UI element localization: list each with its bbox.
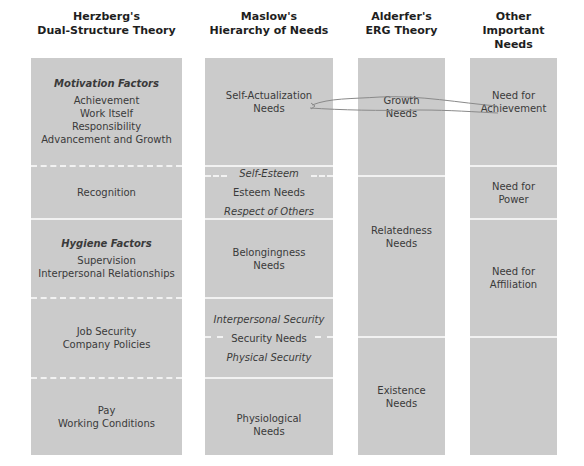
alderfer-growth-cell: Growth Needs	[358, 58, 445, 175]
motivation-item: Achievement	[74, 94, 140, 107]
herzberg-column: Motivation Factors Achievement Work Itse…	[31, 58, 182, 455]
hygiene-item: Supervision	[77, 254, 135, 267]
herzberg-recognition-cell: Recognition	[31, 167, 182, 218]
divider-dashed	[205, 175, 227, 177]
header-maslow-line1: Maslow's	[205, 10, 333, 24]
physiological-label: Needs	[253, 425, 284, 438]
power-label: Need for	[492, 180, 535, 193]
power-label: Power	[498, 193, 528, 206]
alderfer-column: Growth Needs Relatedness Needs Existence…	[358, 58, 445, 455]
self-esteem-label: Self-Esteem	[239, 167, 299, 180]
maslow-physiological-cell: Physiological Needs	[205, 379, 333, 455]
physiological-label: Physiological	[237, 412, 302, 425]
motivation-item: Work Itself	[80, 107, 133, 120]
hygiene-item: Interpersonal Relationships	[38, 267, 174, 280]
motivation-item: Advancement and Growth	[41, 133, 172, 146]
belongingness-label: Belongingness	[233, 246, 306, 259]
esteem-needs-label: Esteem Needs	[233, 186, 305, 199]
alderfer-existence-cell: Existence Needs	[358, 338, 445, 455]
header-other-line1: Other	[462, 10, 565, 24]
maslow-self-actualization-cell: Self-Actualization Needs	[205, 58, 333, 165]
hygiene-item: Pay	[98, 404, 116, 417]
header-other-line2: Important Needs	[462, 24, 565, 52]
header-herzberg: Herzberg's Dual-Structure Theory	[31, 10, 182, 38]
motivation-item: Responsibility	[72, 120, 141, 133]
divider-dashed	[311, 175, 333, 177]
physical-security-label: Physical Security	[227, 351, 312, 364]
header-maslow: Maslow's Hierarchy of Needs	[205, 10, 333, 38]
hygiene-item: Working Conditions	[58, 417, 155, 430]
existence-label: Needs	[386, 397, 417, 410]
achievement-label: Achievement	[481, 102, 547, 115]
header-alderfer-line1: Alderfer's	[358, 10, 445, 24]
affiliation-label: Need for	[492, 265, 535, 278]
other-empty-cell	[470, 338, 557, 455]
header-maslow-line2: Hierarchy of Needs	[205, 24, 333, 38]
hygiene-item: Job Security	[77, 325, 137, 338]
header-alderfer-line2: ERG Theory	[358, 24, 445, 38]
header-herzberg-line1: Herzberg's	[31, 10, 182, 24]
header-alderfer: Alderfer's ERG Theory	[358, 10, 445, 38]
other-needs-column: Need for Achievement Need for Power Need…	[470, 58, 557, 455]
interpersonal-security-label: Interpersonal Security	[214, 313, 325, 326]
relatedness-label: Needs	[386, 237, 417, 250]
achievement-label: Need for	[492, 89, 535, 102]
header-herzberg-line2: Dual-Structure Theory	[31, 24, 182, 38]
motivation-factors-heading: Motivation Factors	[54, 77, 159, 90]
divider-dashed	[205, 336, 223, 338]
divider-dashed	[315, 336, 333, 338]
other-power-cell: Need for Power	[470, 167, 557, 218]
relatedness-label: Relatedness	[371, 224, 432, 237]
herzberg-motivation-cell: Motivation Factors Achievement Work Itse…	[31, 58, 182, 165]
other-achievement-cell: Need for Achievement	[470, 58, 557, 165]
hygiene-item: Company Policies	[63, 338, 151, 351]
existence-label: Existence	[377, 384, 425, 397]
herzberg-hygiene-cell-2: Job Security Company Policies	[31, 299, 182, 377]
herzberg-hygiene-cell-1: Hygiene Factors Supervision Interpersona…	[31, 220, 182, 297]
header-other: Other Important Needs	[462, 10, 565, 52]
maslow-belongingness-cell: Belongingness Needs	[205, 220, 333, 297]
affiliation-label: Affiliation	[490, 278, 537, 291]
self-actualization-label: Self-Actualization	[226, 89, 312, 102]
recognition-label: Recognition	[77, 186, 136, 199]
hygiene-factors-heading: Hygiene Factors	[61, 237, 152, 250]
self-actualization-label: Needs	[253, 102, 284, 115]
maslow-column: Self-Actualization Needs Self-Esteem Est…	[205, 58, 333, 455]
maslow-security-cell: Interpersonal Security Security Needs Ph…	[205, 299, 333, 377]
alderfer-relatedness-cell: Relatedness Needs	[358, 177, 445, 336]
growth-label: Needs	[386, 107, 417, 120]
belongingness-label: Needs	[253, 259, 284, 272]
respect-of-others-label: Respect of Others	[224, 205, 314, 218]
growth-label: Growth	[383, 94, 419, 107]
security-needs-label: Security Needs	[231, 332, 307, 345]
other-affiliation-cell: Need for Affiliation	[470, 220, 557, 336]
herzberg-hygiene-cell-3: Pay Working Conditions	[31, 379, 182, 455]
